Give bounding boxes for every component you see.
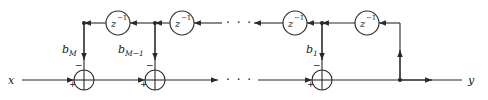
input-label-x: x [8, 74, 15, 87]
adder-1: + − [69, 60, 94, 90]
coefficient-label-bM-1: b M−1 [118, 43, 144, 58]
coefficient-label-b1: b 1 [306, 43, 318, 58]
ellipsis-top-rail: · · · [226, 16, 253, 30]
coefficient-base-label: b [306, 43, 313, 56]
output-label-y: y [467, 74, 475, 87]
adder-2: + − [140, 60, 165, 90]
coefficient-subscript-label: M−1 [124, 49, 144, 58]
junction-dot-bM [82, 21, 86, 25]
coefficient-label-bM: b M [62, 43, 77, 58]
delay-base-label: z [359, 18, 366, 29]
adder-minus-sign: − [313, 60, 321, 70]
delay-exponent-label: −1 [366, 14, 376, 22]
junction-dot-bM-1 [153, 21, 157, 25]
adder-3: + − [307, 60, 332, 90]
delay-element-4: z −1 [355, 11, 379, 35]
junction-dot-feedback-tap [398, 78, 402, 82]
adder-minus-sign: − [146, 60, 154, 70]
junction-dot-b1 [320, 21, 324, 25]
delay-element-2: z −1 [170, 11, 194, 35]
adder-minus-sign: − [75, 60, 83, 70]
delay-element-3: z −1 [283, 11, 307, 35]
delay-base-label: z [110, 18, 117, 29]
delay-exponent-label: −1 [181, 14, 191, 22]
delay-base-label: z [174, 18, 181, 29]
delay-element-1: z −1 [106, 11, 130, 35]
ellipsis-bottom-rail: · · · [226, 73, 253, 87]
adder-plus-sign: + [69, 79, 77, 89]
delay-exponent-label: −1 [117, 14, 127, 22]
signal-flow-graph: z −1 z −1 z −1 z −1 + − [0, 0, 488, 100]
coefficient-base-label: b [62, 43, 69, 56]
filter-signal-flow-diagram: z −1 z −1 z −1 z −1 + − [0, 0, 488, 100]
coefficient-subscript-label: M [68, 49, 77, 58]
adder-plus-sign: + [140, 79, 148, 89]
adder-plus-sign: + [307, 79, 315, 89]
coefficient-subscript-label: 1 [313, 49, 318, 58]
delay-exponent-label: −1 [294, 14, 304, 22]
delay-base-label: z [287, 18, 294, 29]
coefficient-base-label: b [118, 43, 125, 56]
